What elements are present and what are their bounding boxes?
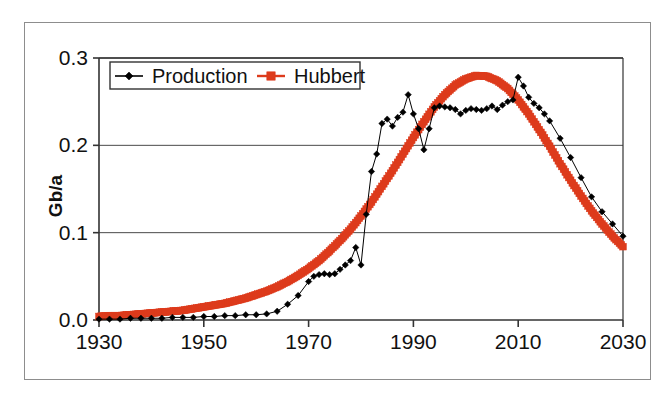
- x-tick-label: 1950: [180, 330, 227, 353]
- y-tick-label: 0.2: [59, 133, 88, 156]
- x-tick-label: 2030: [600, 330, 647, 353]
- legend-entries: ProductionHubbert: [115, 65, 366, 87]
- data-point-marker: [620, 243, 627, 250]
- x-tick-label: 1990: [390, 330, 437, 353]
- chart-figure: 0.00.10.20.3 193019501970199020102030 Gb…: [0, 0, 670, 401]
- x-tick-label: 1970: [285, 330, 332, 353]
- y-tick-label: 0.1: [59, 221, 88, 244]
- plot-background: [99, 58, 623, 320]
- y-axis-title: Gb/a: [45, 174, 66, 217]
- x-tick-label: 2010: [495, 330, 542, 353]
- legend-label-hubbert: Hubbert: [294, 65, 366, 87]
- x-axis-tick-labels: 193019501970199020102030: [76, 330, 647, 353]
- chart-plot: 0.00.10.20.3 193019501970199020102030 Gb…: [0, 0, 670, 401]
- y-tick-label: 0.0: [59, 308, 88, 331]
- x-axis-ticks: [99, 320, 623, 327]
- legend-label-production: Production: [152, 65, 248, 87]
- data-point-marker: [267, 72, 275, 80]
- x-tick-label: 1930: [76, 330, 123, 353]
- y-axis-ticks: [93, 58, 99, 320]
- y-tick-label: 0.3: [59, 46, 88, 69]
- chart-legend: ProductionHubbert: [110, 62, 366, 89]
